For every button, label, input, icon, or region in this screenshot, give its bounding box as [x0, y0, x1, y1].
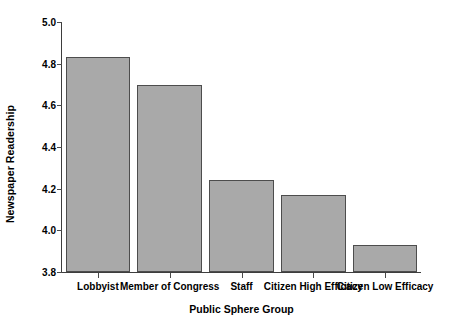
y-axis-tick-mark — [57, 147, 62, 148]
bar — [66, 57, 131, 272]
y-axis-tick-mark — [57, 272, 62, 273]
bar — [353, 245, 418, 272]
y-axis-tick-label: 5.0 — [22, 17, 56, 28]
y-axis-tick-mark — [57, 105, 62, 106]
y-axis-tick-mark — [57, 22, 62, 23]
x-axis-tick-mark — [313, 273, 314, 278]
x-axis-tick-label: Staff — [230, 281, 252, 292]
x-axis-tick-label: Citizen Low Efficacy — [337, 281, 434, 292]
x-axis-tick-mark — [385, 273, 386, 278]
y-axis-tick-mark — [57, 189, 62, 190]
bar — [137, 85, 202, 273]
x-axis-tick-label: Member of Congress — [120, 281, 219, 292]
bar-chart-figure: Newspaper Readership 3.84.04.24.44.64.85… — [0, 0, 449, 328]
x-axis-tick-mark — [242, 273, 243, 278]
y-axis-tick-label: 4.0 — [22, 225, 56, 236]
bar — [281, 195, 346, 272]
y-axis-title: Newspaper Readership — [0, 0, 20, 328]
y-axis-tick-label: 4.6 — [22, 100, 56, 111]
y-axis-tick-mark — [57, 230, 62, 231]
x-axis-tick-label: Lobbyist — [77, 281, 119, 292]
y-axis-tick-label: 4.4 — [22, 142, 56, 153]
y-axis-tick-label: 3.8 — [22, 267, 56, 278]
y-axis-tick-mark — [57, 64, 62, 65]
y-axis-tick-label: 4.2 — [22, 183, 56, 194]
x-axis-tick-mark — [170, 273, 171, 278]
plot-area — [62, 22, 421, 272]
x-axis-title: Public Sphere Group — [62, 303, 421, 315]
y-axis-tick-labels: 3.84.04.24.44.64.85.0 — [22, 0, 56, 328]
x-axis-tick-mark — [98, 273, 99, 278]
y-axis-tick-label: 4.8 — [22, 58, 56, 69]
bar — [209, 180, 274, 272]
